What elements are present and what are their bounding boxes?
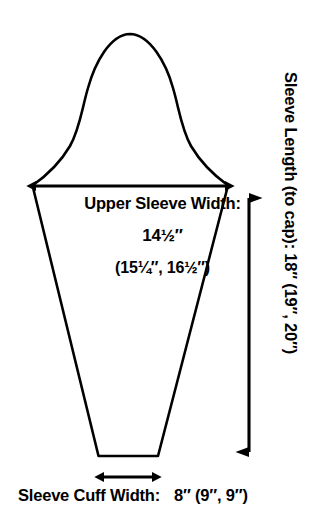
sleeve-drawing — [0, 0, 325, 511]
sleeve-cuff-width-row: Sleeve Cuff Width: 8″ (9″, 9″) — [18, 486, 248, 505]
upper-sleeve-width-value: 14½″ — [142, 226, 182, 246]
sleeve-cuff-width-value: 8″ (9″, 9″) — [174, 486, 248, 505]
sleeve-schematic-diagram: Upper Sleeve Width: 14½″ (15¼″, 16½″) Sl… — [0, 0, 325, 511]
sleeve-length-label: Sleeve Length (to cap): 18″ (19″, 20″) — [281, 72, 300, 354]
sleeve-outline-path — [33, 34, 229, 456]
sleeve-cuff-width-label: Sleeve Cuff Width: — [18, 486, 160, 505]
upper-sleeve-width-label: Upper Sleeve Width: — [84, 194, 241, 213]
upper-sleeve-width-alt-sizes: (15¼″, 16½″) — [115, 259, 210, 277]
